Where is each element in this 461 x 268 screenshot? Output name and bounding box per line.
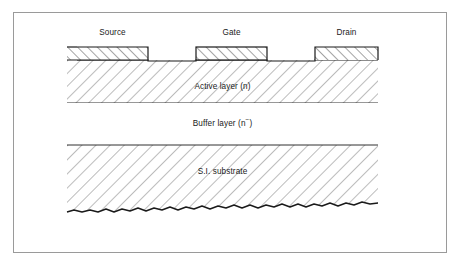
gate-label: Gate bbox=[196, 28, 267, 37]
buffer-layer-label: Buffer layer (n−) bbox=[67, 119, 378, 128]
buffer-layer-label-main: Buffer layer (n bbox=[193, 119, 246, 128]
drain-electrode[interactable] bbox=[315, 47, 378, 60]
source-electrode[interactable] bbox=[67, 47, 148, 60]
device-cross-section-diagram bbox=[0, 0, 461, 268]
figure-canvas: Source Gate Drain Active layer (n) Buffe… bbox=[0, 0, 461, 268]
drain-label: Drain bbox=[315, 28, 378, 37]
si-substrate-body bbox=[67, 145, 378, 215]
active-layer-label: Active layer (n) bbox=[67, 82, 378, 91]
source-label: Source bbox=[77, 28, 148, 37]
buffer-layer-label-tail: ) bbox=[249, 119, 252, 128]
gate-electrode[interactable] bbox=[196, 47, 267, 60]
si-substrate-label: S.I. substrate bbox=[67, 167, 378, 176]
